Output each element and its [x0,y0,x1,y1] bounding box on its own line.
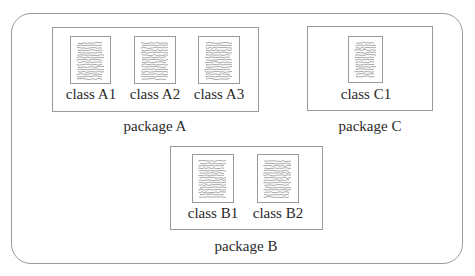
document-icon [70,36,111,84]
class-c1-label: class C1 [335,86,397,103]
class-b2-label: class B2 [247,205,309,222]
document-icon [192,154,234,203]
package-b-label: package B [196,238,296,255]
document-icon [198,36,240,84]
class-a1-label: class A1 [60,86,122,103]
package-c-label: package C [320,118,420,135]
document-icon [348,36,383,83]
package-a-label: package A [105,118,205,135]
document-icon [257,154,299,203]
class-a3-label: class A3 [188,86,250,103]
class-b1-label: class B1 [182,205,244,222]
class-a2-label: class A2 [124,86,186,103]
document-icon [134,36,176,84]
